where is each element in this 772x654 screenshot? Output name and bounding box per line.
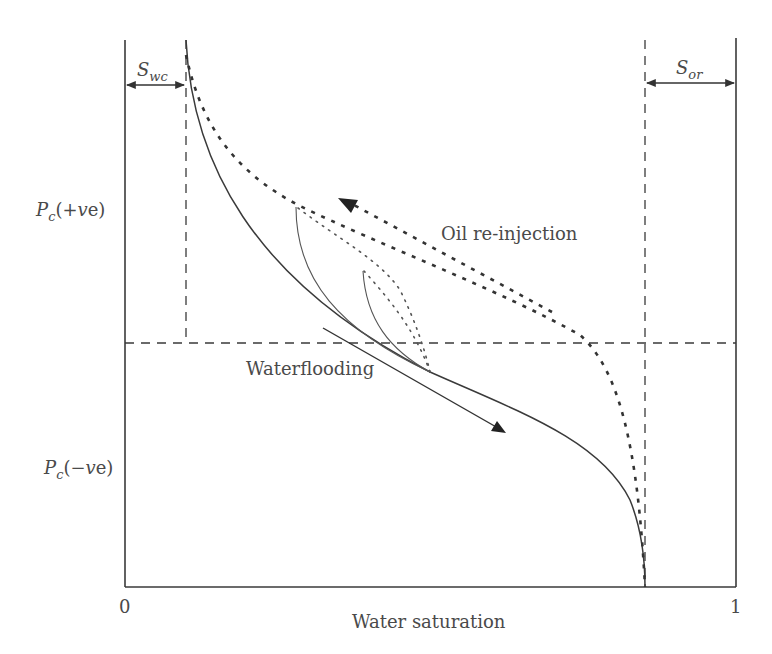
waterflooding-label: Waterflooding [246,358,374,379]
oil-reinjection-arrow [338,198,552,312]
oil-reinjection-curve [186,55,645,587]
pc-negative-label: Pc(−ve) [43,457,113,482]
pc-positive-label: Pc(+ve) [35,199,105,224]
swc-dimension: Swc [127,59,184,85]
capillary-pressure-diagram: Swc Sor Oil re-injection Waterflooding P… [0,0,772,654]
waterflooding-arrow [323,328,506,433]
swc-label: Swc [137,59,168,84]
sor-label: Sor [676,57,703,82]
reference-lines [125,40,736,587]
x-tick-0: 0 [119,596,130,617]
oil-reinjection-arrow-shaft [352,204,552,312]
reversal-dotted-curve-1 [298,208,430,372]
x-axis-title: Water saturation [352,611,506,632]
waterflooding-curve [186,40,645,587]
sor-dimension: Sor [647,57,734,83]
scanning-curve-1 [296,207,430,372]
x-tick-1: 1 [730,596,741,617]
arrowhead-icon [491,421,506,433]
oil-reinjection-label: Oil re-injection [441,223,578,244]
arrowhead-icon [338,198,358,213]
